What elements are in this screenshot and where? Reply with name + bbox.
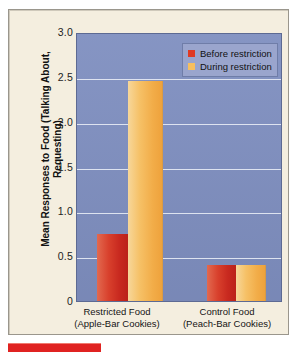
- y-axis-ticks: 3.0 2.5 2.0 1.5 1.0 0.5 0: [29, 33, 73, 302]
- y-tick-label-1-0: 1.0: [33, 205, 73, 217]
- x-axis-label-restricted-food-line-1: Restricted Food: [62, 306, 172, 318]
- plot-area: Before restriction During restriction: [76, 33, 282, 302]
- y-tick-label-0-5: 0.5: [33, 250, 73, 262]
- legend-label-before: Before restriction: [200, 48, 272, 59]
- gridline-2-0: [77, 124, 281, 125]
- bar-restricted-before: [97, 234, 129, 302]
- bar-restricted-during: [128, 81, 163, 302]
- chart-card: Mean Responses to Food (Talking About, R…: [8, 9, 289, 335]
- x-axis-label-control-food-line-1: Control Food: [172, 306, 282, 318]
- legend-item-during: During restriction: [188, 61, 272, 72]
- y-tick-label-1-5: 1.5: [33, 161, 73, 173]
- legend-swatch-orange-icon: [188, 63, 195, 70]
- legend-label-during: During restriction: [200, 61, 272, 72]
- bottom-red-rule: [8, 343, 101, 352]
- gridline-1-5: [77, 169, 281, 170]
- chart-legend: Before restriction During restriction: [182, 43, 278, 77]
- bar-control-before: [207, 265, 237, 302]
- y-tick-label-2-0: 2.0: [33, 116, 73, 128]
- bar-control-during: [236, 265, 266, 302]
- y-tick-label-3-0: 3.0: [33, 26, 73, 38]
- legend-item-before: Before restriction: [188, 48, 272, 59]
- x-axis-label-control-food: Control Food (Peach-Bar Cookies): [172, 306, 282, 330]
- gridline-2-5: [77, 79, 281, 80]
- legend-swatch-red-icon: [188, 50, 195, 57]
- x-axis-label-control-food-line-2: (Peach-Bar Cookies): [172, 318, 282, 330]
- y-tick-label-2-5: 2.5: [33, 71, 73, 83]
- chart-figure: Mean Responses to Food (Talking About, R…: [0, 0, 299, 353]
- x-axis-label-restricted-food: Restricted Food (Apple-Bar Cookies): [62, 306, 172, 330]
- x-axis-label-restricted-food-line-2: (Apple-Bar Cookies): [62, 318, 172, 330]
- gridline-1-0: [77, 213, 281, 214]
